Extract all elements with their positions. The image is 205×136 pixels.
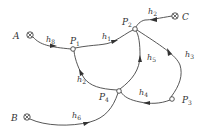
arrow-h6	[83, 122, 90, 126]
label-P3: P3	[181, 95, 192, 106]
label-h3: h3	[185, 50, 194, 60]
label-h2-top: h2	[148, 7, 157, 17]
source-C	[172, 13, 178, 19]
label-P2: P2	[121, 17, 132, 28]
arrow-h1	[111, 40, 118, 44]
label-h1: h1	[102, 32, 111, 42]
label-h2-mid: h2	[77, 75, 86, 85]
arrow-h4	[143, 101, 150, 105]
label-B: B	[10, 113, 18, 123]
source-A	[27, 32, 33, 38]
label-h4: h4	[139, 88, 148, 98]
node-P3	[170, 97, 175, 102]
label-h6: h6	[72, 111, 81, 121]
label-P4: P4	[98, 92, 109, 103]
label-h5: h5	[147, 53, 156, 63]
label-h8: h8	[46, 35, 55, 45]
edge-h2-top	[136, 16, 172, 27]
arrow-h3	[167, 48, 172, 56]
edge-h3	[137, 30, 181, 97]
label-A: A	[12, 31, 20, 41]
label-P1: P1	[69, 36, 80, 47]
edge-h5	[120, 31, 140, 89]
flow-diagram: A B C P1 P2 P3 P4 h8 h1 h2 h3 h5 h4 h2 h…	[0, 0, 205, 136]
arrow-h5	[138, 55, 142, 62]
node-P2	[133, 27, 138, 32]
node-P4	[117, 89, 122, 94]
node-P1	[71, 47, 76, 52]
label-C: C	[182, 12, 189, 22]
source-B	[24, 114, 30, 120]
